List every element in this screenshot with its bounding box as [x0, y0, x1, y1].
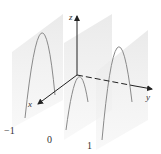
- surface-traces-diagram: z x y −1 0 1: [0, 0, 161, 154]
- plane-x-minus-1: [12, 14, 63, 128]
- x-axis-label: x: [27, 99, 32, 109]
- plane-label-1: 1: [87, 140, 92, 151]
- y-axis-label: y: [145, 92, 150, 102]
- plane-label-minus-1: −1: [4, 125, 15, 136]
- z-axis-label: z: [68, 12, 73, 22]
- plane-label-0: 0: [47, 134, 52, 145]
